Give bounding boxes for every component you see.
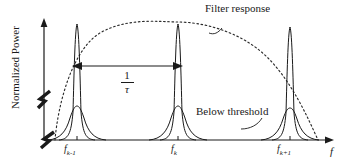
y-axis-arrowhead <box>41 18 48 27</box>
tick-sub-kp1: k+1 <box>280 149 291 157</box>
narrow-peak-kp1 <box>272 27 308 140</box>
below-threshold-label: Below threshold <box>196 106 268 117</box>
x-tick-label-k-minus-1: fk-1 <box>64 143 76 157</box>
x-tick-label-k-plus-1: fk+1 <box>277 143 291 157</box>
broad-peak-kp1 <box>261 108 319 140</box>
filter-response-label: Filter response <box>205 3 270 14</box>
tick-sub-km1: k-1 <box>67 149 76 157</box>
x-axis-arrowhead <box>325 137 334 144</box>
narrow-line-curves <box>59 24 308 140</box>
filter-response-leader-line <box>209 28 222 34</box>
comb-spacing-arrowhead-left <box>72 62 82 70</box>
figure-canvas <box>0 0 344 165</box>
comb-spacing-numerator: 1 <box>112 70 142 81</box>
narrow-peak-k <box>160 24 196 140</box>
comb-spacing-fraction: 1 τ <box>112 70 142 95</box>
comb-spacing-denominator: τ <box>112 84 142 95</box>
x-tick-label-k: fk <box>171 143 177 157</box>
comb-spacing-arrowhead-right <box>173 62 183 70</box>
x-axis-label: f <box>330 146 333 157</box>
tick-sub-k: k <box>174 149 177 157</box>
below-threshold-leader <box>241 118 262 129</box>
spectral-comb-figure: Filter response Below threshold Normaliz… <box>0 0 344 165</box>
below-threshold-leader-line <box>241 118 262 129</box>
y-axis-label: Normalized Power <box>10 18 21 118</box>
